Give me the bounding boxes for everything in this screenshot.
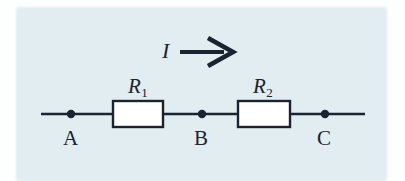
resistor-r2-label: R2 [253,76,272,97]
node-a-label: A [63,128,78,149]
circuit-svg [0,0,405,181]
circuit-diagram-figure: R1 R2 I A B C [0,0,405,181]
resistor-r1-symbol: R [128,74,141,98]
resistor-r2-subscript: 2 [266,85,273,100]
node-c-dot [321,110,329,118]
resistor-r1-label: R1 [128,76,147,97]
current-symbol-label: I [162,40,169,62]
node-b-dot [198,110,206,118]
circuit-drawing [0,0,405,181]
arrow-right-icon [180,38,233,66]
resistor-r2-symbol: R [253,74,266,98]
node-b-label: B [194,128,208,149]
resistor-r1-body [113,101,163,127]
node-c-label: C [317,128,331,149]
resistor-r1-subscript: 1 [141,85,148,100]
node-a-dot [67,110,75,118]
resistor-r2-body [238,101,290,127]
